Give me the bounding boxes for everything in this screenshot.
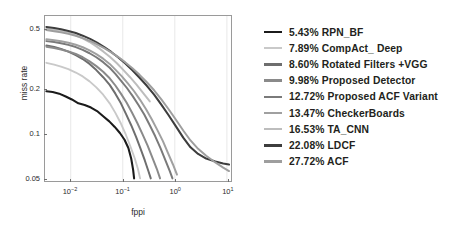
legend: 5.43% RPN_BF7.89% CompAct_ Deep8.60% Rot… (264, 24, 463, 170)
axes-box (44, 15, 232, 182)
curve-layer (45, 16, 231, 181)
legend-item[interactable]: 13.47% CheckerBoards (264, 105, 463, 121)
legend-color-swatch (264, 63, 282, 65)
plot-region: 0.50.20.10.05 10−210−1100101 miss rate f… (0, 0, 246, 232)
x-tick-mark (70, 179, 71, 182)
x-tick-mark (175, 179, 176, 182)
legend-item-label: 5.43% RPN_BF (289, 27, 363, 38)
legend-item[interactable]: 27.72% ACF (264, 154, 463, 170)
roc-chart-figure: 0.50.20.10.05 10−210−1100101 miss rate f… (0, 0, 463, 232)
x-tick-mark (228, 179, 229, 182)
legend-color-swatch (264, 31, 282, 33)
y-tick-label: 0.1 (4, 130, 40, 138)
legend-item-label: 27.72% ACF (289, 156, 349, 167)
legend-color-swatch (264, 47, 282, 49)
legend-item-label: 7.89% CompAct_ Deep (289, 43, 403, 54)
legend-item-label: 9.98% Proposed Detector (289, 75, 415, 86)
legend-item[interactable]: 22.08% LDCF (264, 137, 463, 153)
y-tick-mark (44, 29, 47, 30)
legend-item[interactable]: 8.60% Rotated Filters +VGG (264, 56, 463, 72)
legend-color-swatch (264, 112, 282, 114)
legend-item-label: 22.08% LDCF (289, 140, 355, 151)
y-tick-mark (44, 179, 47, 180)
y-tick-label: 0.05 (4, 175, 40, 183)
y-tick-mark (44, 89, 47, 90)
legend-color-swatch (264, 96, 282, 98)
x-tick-label: 10−2 (50, 188, 90, 196)
legend-color-swatch (264, 128, 282, 130)
legend-color-swatch (264, 160, 282, 162)
x-tick-label: 101 (208, 188, 248, 196)
y-tick-mark (44, 134, 47, 135)
legend-item-label: 8.60% Rotated Filters +VGG (289, 59, 428, 70)
legend-item[interactable]: 9.98% Proposed Detector (264, 73, 463, 89)
legend-item-label: 12.72% Proposed ACF Variant (289, 91, 438, 102)
legend-item-label: 13.47% CheckerBoards (289, 108, 405, 119)
legend-item[interactable]: 5.43% RPN_BF (264, 24, 463, 40)
x-tick-label: 10−1 (103, 188, 143, 196)
legend-color-swatch (264, 144, 282, 146)
legend-color-swatch (264, 79, 282, 81)
x-tick-mark (123, 179, 124, 182)
legend-item[interactable]: 7.89% CompAct_ Deep (264, 40, 463, 56)
x-axis-title: fppi (44, 207, 232, 217)
y-axis-title: miss rate (19, 53, 29, 113)
legend-item[interactable]: 12.72% Proposed ACF Variant (264, 89, 463, 105)
curve-proposed-acf-variant (46, 41, 172, 178)
legend-item-label: 16.53% TA_CNN (289, 124, 369, 135)
x-tick-label: 100 (155, 188, 195, 196)
legend-item[interactable]: 16.53% TA_CNN (264, 121, 463, 137)
y-tick-label: 0.5 (4, 25, 40, 33)
